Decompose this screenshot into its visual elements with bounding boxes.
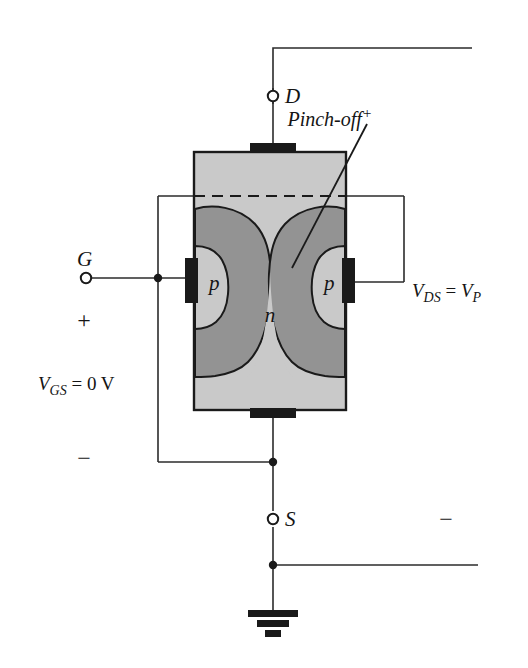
label-p-right: p (322, 271, 335, 295)
drain-terminal-circle[interactable] (268, 91, 278, 101)
label-vgs: VGS = 0 V (38, 373, 115, 398)
junction-dot-source (269, 458, 277, 466)
label-pinch-off: Pinch-off+ (286, 105, 372, 131)
ground-bar-2 (257, 620, 289, 627)
label-pinch-off-superscript: + (362, 105, 372, 121)
label-source: S (285, 507, 296, 531)
label-vds: VDS = VP (412, 280, 482, 305)
ground-symbol (248, 610, 298, 637)
label-gate-plus: + (77, 307, 91, 333)
wire-drain-to-supply-top (273, 48, 472, 96)
source-contact (250, 408, 296, 418)
drain-contact (250, 143, 296, 153)
junction-dot-ground (269, 561, 277, 569)
source-terminal-circle[interactable] (268, 514, 278, 524)
figure-canvas: D S G Pinch-off+ VDS = VP VGS = 0 V + − (0, 0, 528, 668)
ground-bar-3 (265, 630, 281, 637)
label-drain: D (284, 84, 300, 108)
label-p-left: p (207, 271, 220, 295)
jfet-pinchoff-diagram: D S G Pinch-off+ VDS = VP VGS = 0 V + − (0, 0, 528, 668)
gate-terminal-circle[interactable] (81, 273, 91, 283)
ground-bar-1 (248, 610, 298, 617)
junction-dot-gate (154, 274, 162, 282)
label-gate-minus: − (77, 445, 91, 471)
gate-contact-left (185, 258, 198, 303)
gate-contact-right (342, 258, 355, 303)
label-gate: G (77, 247, 92, 271)
label-supply-minus: − (439, 506, 453, 532)
label-n-channel: n (265, 303, 276, 327)
